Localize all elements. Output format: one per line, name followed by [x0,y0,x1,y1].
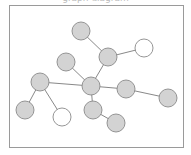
graph-node-n12 [107,114,125,132]
graph-node-n6 [31,73,49,91]
graph-node-n4 [57,53,75,71]
graph-node-n10 [53,108,71,126]
graph-diagram [0,0,191,155]
graph-node-n2 [99,48,117,66]
graph-node-n11 [84,101,102,119]
graph-node-n5 [82,77,100,95]
graph-node-n3 [135,39,153,57]
graph-node-n9 [16,101,34,119]
graph-node-n7 [117,80,135,98]
graph-node-n8 [159,89,177,107]
graph-node-n1 [72,22,90,40]
